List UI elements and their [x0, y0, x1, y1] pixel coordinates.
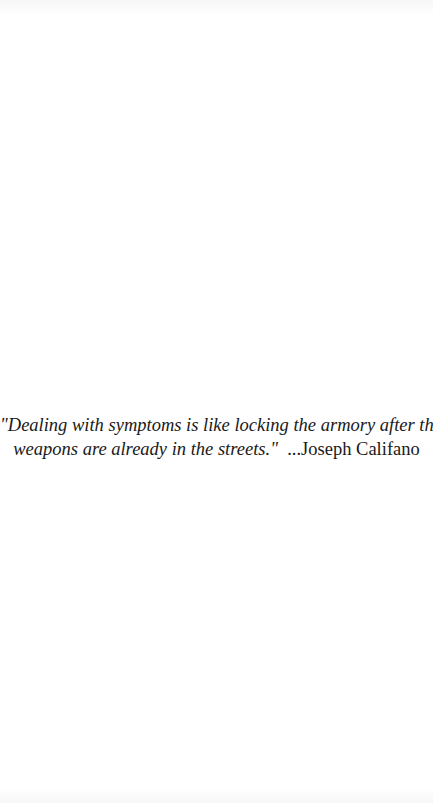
document-page: "Dealing with symptoms is like locking t…: [0, 0, 433, 803]
quote-block: "Dealing with symptoms is like locking t…: [0, 413, 433, 461]
quote-line-1: "Dealing with symptoms is like locking t…: [0, 413, 433, 437]
scan-bleed-top: [0, 0, 433, 14]
quote-line-2: weapons are already in the streets." ...…: [0, 437, 433, 461]
scan-bleed-bottom: [0, 789, 433, 803]
quote-line-2-text: weapons are already in the streets.": [13, 439, 278, 459]
quote-attribution: ...Joseph Califano: [287, 439, 420, 459]
